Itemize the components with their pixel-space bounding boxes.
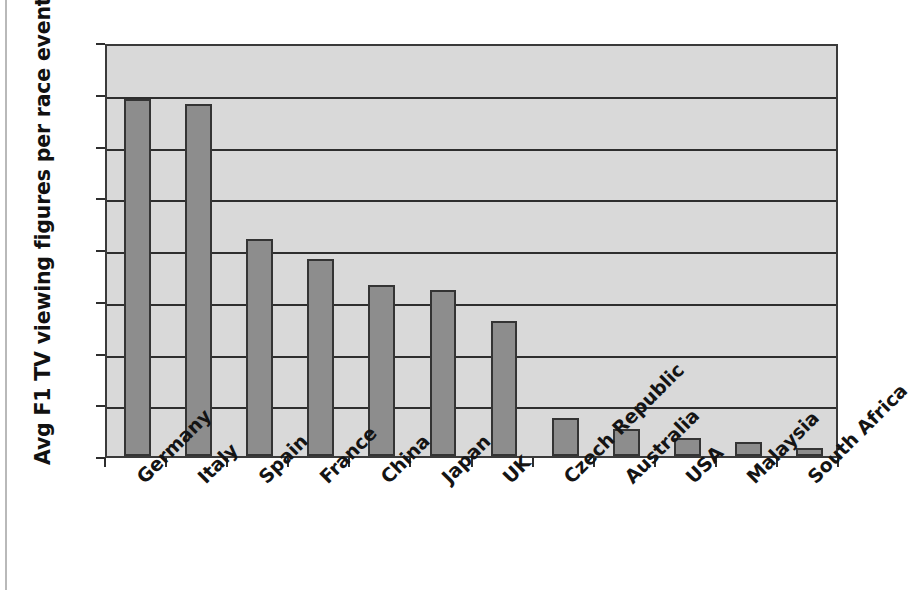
y-axis-title: Avg F1 TV viewing figures per race event… bbox=[31, 45, 55, 465]
bar bbox=[735, 442, 762, 456]
bar bbox=[552, 418, 579, 456]
y-axis-tick-mark bbox=[96, 354, 105, 356]
bar bbox=[124, 99, 151, 456]
bar bbox=[185, 104, 212, 456]
y-axis-tick-mark bbox=[96, 95, 105, 97]
x-axis-tick-mark bbox=[104, 458, 106, 467]
y-axis-tick-mark bbox=[96, 198, 105, 200]
y-axis-tick-mark bbox=[96, 302, 105, 304]
y-axis-tick-mark bbox=[96, 250, 105, 252]
plot-area bbox=[105, 44, 838, 458]
bar bbox=[491, 321, 518, 456]
bar bbox=[246, 239, 273, 456]
bars-group bbox=[107, 46, 836, 456]
y-axis-tick-mark bbox=[96, 405, 105, 407]
y-axis-tick-mark bbox=[96, 147, 105, 149]
plot-inner bbox=[107, 46, 836, 456]
y-axis-tick-mark bbox=[96, 43, 105, 45]
bar bbox=[430, 290, 457, 456]
bar bbox=[307, 259, 334, 456]
